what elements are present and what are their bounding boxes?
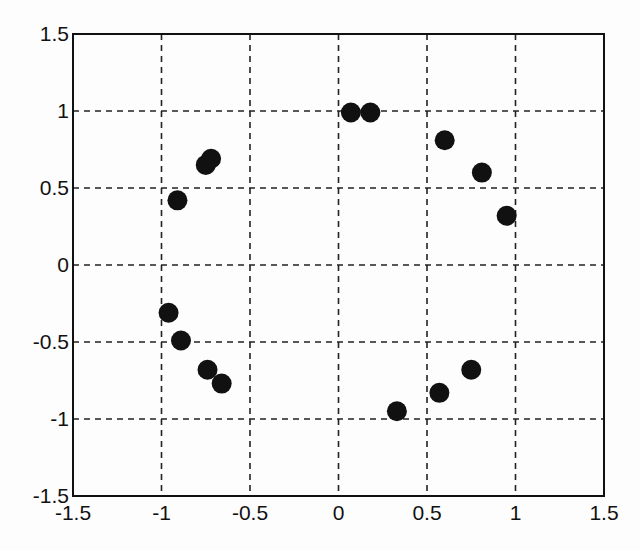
x-tick-label: -1: [152, 501, 171, 524]
grid-lines: [73, 34, 604, 496]
data-point: [497, 206, 517, 226]
data-point: [167, 190, 187, 210]
data-point: [171, 330, 191, 350]
x-tick-label: 0.5: [412, 501, 441, 524]
y-tick-label: -0.5: [33, 330, 69, 353]
data-point: [341, 103, 361, 123]
data-point: [461, 360, 481, 380]
data-point: [212, 374, 232, 394]
data-point: [429, 383, 449, 403]
x-tick-label: 1.5: [589, 501, 618, 524]
y-tick-label: 0.5: [40, 176, 69, 199]
y-tick-label: 1: [57, 99, 69, 122]
y-tick-label: -1.5: [33, 484, 69, 507]
data-point: [435, 130, 455, 150]
data-points: [159, 103, 517, 422]
data-point: [387, 401, 407, 421]
y-tick-label: 1.5: [40, 22, 69, 45]
x-tick-label: 0: [333, 501, 345, 524]
y-tick-label: -1: [50, 407, 69, 430]
data-point: [201, 149, 221, 169]
x-tick-label: 1: [510, 501, 522, 524]
y-tick-label: 0: [57, 253, 69, 276]
data-point: [159, 303, 179, 323]
y-axis-ticks: -1.5-1-0.500.511.5: [33, 22, 69, 507]
x-tick-label: -0.5: [232, 501, 268, 524]
scatter-chart: -1.5-1-0.500.511.5 -1.5-1-0.500.511.5: [0, 0, 640, 551]
x-axis-ticks: -1.5-1-0.500.511.5: [55, 501, 619, 524]
data-point: [360, 103, 380, 123]
data-point: [472, 163, 492, 183]
